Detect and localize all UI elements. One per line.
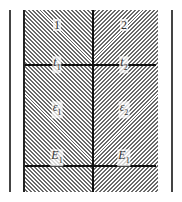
lower-interface-line (25, 165, 156, 167)
right-boundary-line (171, 10, 173, 192)
left-boundary-line (9, 10, 11, 192)
region-label-2: 2 (120, 19, 128, 31)
layered-block-diagram: 1 2 t1 t2 ε1 ε2 E1 E1 (0, 0, 182, 202)
interface-label-t2: t2 (119, 56, 128, 73)
strain-label-epsilon1: ε1 (52, 101, 63, 118)
interface-label-t1: t1 (52, 56, 61, 73)
region-label-1: 1 (53, 19, 61, 31)
modulus-label-right: E1 (117, 149, 130, 166)
modulus-label-left: E1 (50, 149, 63, 166)
strain-label-epsilon2: ε2 (119, 101, 130, 118)
hatched-block (23, 10, 158, 192)
upper-interface-line (25, 64, 156, 66)
